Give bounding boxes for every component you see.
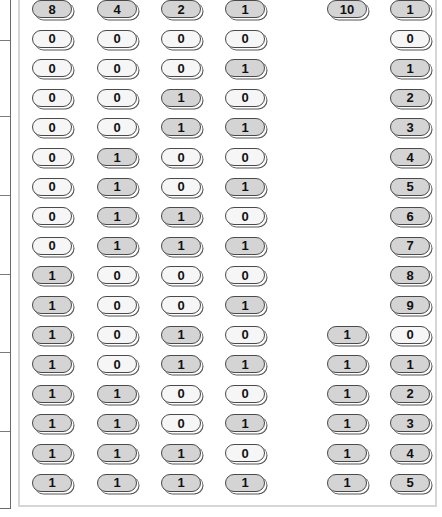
bit-pill: 1 — [97, 148, 137, 166]
bit-pill: 1 — [97, 178, 137, 196]
bit-pill: 0 — [161, 414, 201, 432]
header-pill: 1 — [390, 0, 430, 18]
bit-pill: 1 — [97, 385, 137, 403]
left-tick — [0, 116, 10, 117]
bit-pill: 0 — [225, 207, 265, 225]
bit-pill: 0 — [32, 118, 72, 136]
left-tick — [0, 274, 10, 275]
bit-pill: 1 — [161, 118, 201, 136]
tens-pill: 1 — [327, 385, 367, 403]
bit-pill: 1 — [225, 296, 265, 314]
ones-pill: 2 — [390, 385, 430, 403]
bit-pill: 0 — [161, 148, 201, 166]
ones-pill: 3 — [390, 414, 430, 432]
bit-pill: 1 — [161, 326, 201, 344]
bit-pill: 1 — [97, 474, 137, 492]
bit-pill: 0 — [32, 30, 72, 48]
ones-pill: 7 — [390, 237, 430, 255]
bit-pill: 0 — [225, 385, 265, 403]
bit-pill: 1 — [32, 474, 72, 492]
left-frame-edge — [0, 0, 11, 509]
bit-pill: 1 — [97, 237, 137, 255]
bit-pill: 1 — [161, 237, 201, 255]
bit-pill: 1 — [32, 326, 72, 344]
bit-pill: 1 — [161, 207, 201, 225]
ones-pill: 6 — [390, 207, 430, 225]
bit-pill: 0 — [225, 89, 265, 107]
bit-pill: 1 — [225, 237, 265, 255]
bit-pill: 0 — [225, 148, 265, 166]
ones-pill: 1 — [390, 355, 430, 373]
bit-pill: 1 — [225, 355, 265, 373]
bit-pill: 0 — [225, 30, 265, 48]
bit-pill: 0 — [225, 266, 265, 284]
bit-pill: 0 — [97, 326, 137, 344]
bit-pill: 1 — [97, 414, 137, 432]
bit-pill: 1 — [225, 178, 265, 196]
bit-pill: 1 — [32, 355, 72, 373]
left-tick — [0, 195, 10, 196]
bit-pill: 1 — [161, 89, 201, 107]
header-pill: 4 — [97, 0, 137, 18]
tens-pill: 1 — [327, 414, 367, 432]
bit-pill: 0 — [161, 178, 201, 196]
bit-pill: 1 — [32, 266, 72, 284]
bit-pill: 0 — [225, 326, 265, 344]
ones-pill: 2 — [390, 89, 430, 107]
binary-decimal-table-panel — [18, 0, 437, 507]
ones-pill: 3 — [390, 118, 430, 136]
bit-pill: 0 — [32, 148, 72, 166]
bit-pill: 0 — [97, 30, 137, 48]
bit-pill: 0 — [32, 237, 72, 255]
header-pill: 10 — [327, 0, 367, 18]
left-tick — [0, 352, 10, 353]
bit-pill: 1 — [32, 414, 72, 432]
bit-pill: 1 — [97, 444, 137, 462]
bit-pill: 1 — [32, 385, 72, 403]
ones-pill: 5 — [390, 474, 430, 492]
bit-pill: 0 — [97, 355, 137, 373]
ones-pill: 4 — [390, 148, 430, 166]
bit-pill: 1 — [225, 414, 265, 432]
bit-pill: 0 — [161, 385, 201, 403]
ones-pill: 5 — [390, 178, 430, 196]
bit-pill: 0 — [97, 266, 137, 284]
bit-pill: 0 — [32, 178, 72, 196]
bit-pill: 1 — [97, 207, 137, 225]
ones-pill: 9 — [390, 296, 430, 314]
bit-pill: 1 — [161, 444, 201, 462]
bit-pill: 0 — [161, 266, 201, 284]
ones-pill: 0 — [390, 326, 430, 344]
left-tick — [0, 40, 10, 41]
ones-pill: 8 — [390, 266, 430, 284]
bit-pill: 0 — [161, 30, 201, 48]
bit-pill: 0 — [225, 444, 265, 462]
bit-pill: 0 — [161, 59, 201, 77]
header-pill: 1 — [225, 0, 265, 18]
bit-pill: 0 — [97, 59, 137, 77]
left-tick — [0, 431, 10, 432]
bit-pill: 0 — [32, 59, 72, 77]
bit-pill: 1 — [32, 296, 72, 314]
bit-pill: 1 — [225, 59, 265, 77]
bit-pill: 1 — [225, 118, 265, 136]
tens-pill: 1 — [327, 474, 367, 492]
bit-pill: 1 — [161, 474, 201, 492]
bit-pill: 1 — [225, 474, 265, 492]
tens-pill: 1 — [327, 355, 367, 373]
bit-pill: 1 — [161, 355, 201, 373]
ones-pill: 4 — [390, 444, 430, 462]
bit-pill: 0 — [97, 89, 137, 107]
ones-pill: 0 — [390, 30, 430, 48]
header-pill: 2 — [161, 0, 201, 18]
bit-pill: 0 — [97, 118, 137, 136]
ones-pill: 1 — [390, 59, 430, 77]
bit-pill: 0 — [32, 207, 72, 225]
tens-pill: 1 — [327, 326, 367, 344]
bit-pill: 0 — [32, 89, 72, 107]
bit-pill: 0 — [161, 296, 201, 314]
bit-pill: 1 — [32, 444, 72, 462]
tens-pill: 1 — [327, 444, 367, 462]
bit-pill: 0 — [97, 296, 137, 314]
header-pill: 8 — [32, 0, 72, 18]
